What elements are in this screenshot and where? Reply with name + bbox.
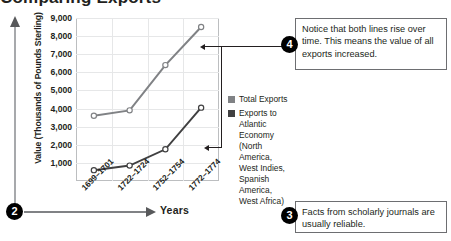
chart-plot-area: [76, 18, 219, 181]
legend-item-total-exports: Total Exports: [228, 94, 292, 105]
y-tick-label: 5,000: [34, 85, 72, 95]
figure-root: Comparing Exports Value (Thousands of Po…: [0, 0, 451, 241]
callout-4-leader-bottom: [208, 147, 222, 148]
y-tick-label: 7,000: [34, 49, 72, 59]
series-lines: [76, 18, 219, 181]
callout-4-arrow-top-icon: [200, 44, 205, 50]
chart-legend: Total Exports Exports to Atlantic Econom…: [228, 94, 292, 210]
legend-item-atlantic-economy: Exports to Atlantic Economy (North Ameri…: [228, 108, 292, 207]
page-title: Comparing Exports: [0, 0, 300, 6]
callout-3-marker: 3: [281, 207, 298, 224]
callout-2-arrow-up-icon: [10, 16, 20, 27]
legend-label: Total Exports: [239, 94, 292, 105]
legend-label: Exports to Atlantic Economy (North Ameri…: [239, 108, 292, 207]
y-tick-label: 6,000: [34, 67, 72, 77]
callout-4-leader-vertical: [221, 46, 222, 148]
y-tick-label: 1,000: [34, 158, 72, 168]
y-axis-tick-labels: 1,0002,0003,0004,0005,0006,0007,0008,000…: [30, 18, 72, 181]
y-tick-label: 2,000: [34, 140, 72, 150]
legend-swatch-icon: [228, 110, 235, 117]
callout-4-box: Notice that both lines rise over time. T…: [295, 18, 447, 70]
callout-2-vertical-line: [14, 26, 16, 206]
callout-4-marker: 4: [281, 36, 298, 53]
x-axis-title: Years: [160, 204, 189, 216]
y-tick-label: 8,000: [34, 31, 72, 41]
callout-2-arrow-right-icon: [146, 207, 156, 217]
callout-2-horizontal-line: [24, 211, 147, 213]
y-tick-label: 9,000: [34, 13, 72, 23]
y-tick-label: 4,000: [34, 104, 72, 114]
callout-4-leader-top: [222, 46, 290, 47]
y-tick-label: 3,000: [34, 122, 72, 132]
callout-4-arrow-bottom-icon: [204, 145, 209, 151]
callout-3-box: Facts from scholarly journals are usuall…: [295, 201, 447, 233]
callout-2-marker: 2: [6, 203, 23, 220]
legend-swatch-icon: [228, 96, 235, 103]
